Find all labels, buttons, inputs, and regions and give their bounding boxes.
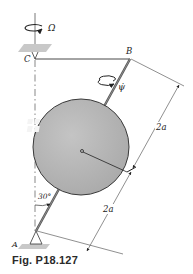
psi-dot-spin-icon xyxy=(98,76,115,85)
dim-ext-a xyxy=(37,231,123,254)
omega-label: Ω xyxy=(47,23,56,33)
figure-diagram: Ω C B ψ̇ 2a 2a 30° A xyxy=(0,0,193,274)
support-c-bracket xyxy=(32,52,38,59)
point-c-label: C xyxy=(24,54,31,64)
figure-caption: Fig. P18.127 xyxy=(12,254,78,266)
point-a-label: A xyxy=(11,240,18,249)
sphere xyxy=(33,99,129,195)
dim-label-upper: 2a xyxy=(155,122,166,132)
angle-label: 30° xyxy=(38,192,52,201)
point-b-label: B xyxy=(125,46,132,56)
psi-dot-label: ψ̇ xyxy=(118,82,126,92)
omega-rotation-icon xyxy=(25,25,42,31)
angle-arc xyxy=(35,204,50,206)
dim-label-lower: 2a xyxy=(102,204,113,214)
support-c xyxy=(18,44,52,52)
dim-ext-b xyxy=(131,59,184,86)
support-a-pin xyxy=(30,231,42,244)
support-a-hatch xyxy=(18,244,50,249)
dim-tick-mid xyxy=(127,167,136,172)
